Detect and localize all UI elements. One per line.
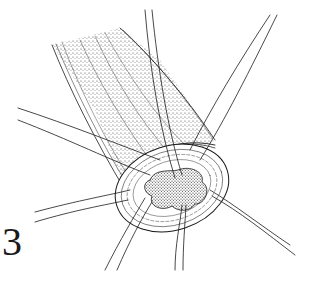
illustration — [0, 0, 317, 282]
figure-number: 3 — [2, 222, 22, 262]
thread — [35, 200, 128, 222]
thread — [212, 196, 295, 255]
cross-section-core — [145, 168, 207, 210]
stalk-drawing — [0, 0, 317, 282]
